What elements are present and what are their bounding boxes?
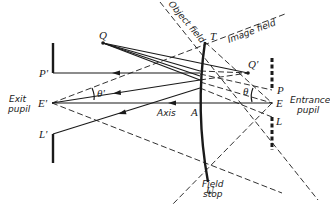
ray-Q-1 xyxy=(103,43,200,71)
angle-theta-arc xyxy=(251,88,253,102)
label-field-stop-1: Field xyxy=(202,179,224,189)
axis-arrow xyxy=(168,101,176,106)
label-theta-prime: θ' xyxy=(97,87,105,99)
label-P-prime: P' xyxy=(38,67,49,79)
label-exit-pupil-1: Exit xyxy=(9,94,27,104)
arrow-L-prime xyxy=(118,110,127,115)
optics-diagram: Q Q' T U A P P' L L' E E' θ θ' Axis Obje… xyxy=(0,0,330,211)
label-exit-pupil-2: pupil xyxy=(7,104,31,114)
label-entrance-pupil-1: Entrance xyxy=(290,95,330,105)
point-Q xyxy=(101,41,105,45)
label-Q-prime: Q' xyxy=(248,58,259,70)
label-T: T xyxy=(210,30,217,42)
label-L-prime: L' xyxy=(38,128,48,140)
label-P: P xyxy=(276,84,284,96)
arrow-E-prime xyxy=(113,90,121,95)
label-theta: θ xyxy=(243,85,249,97)
dashed-to-P xyxy=(200,74,272,90)
angle-theta-prime-arc xyxy=(92,88,94,100)
ray-Q-4 xyxy=(103,43,248,73)
label-E-prime: E' xyxy=(37,97,48,109)
label-L: L xyxy=(275,115,282,127)
arrow-P-prime xyxy=(112,71,120,76)
label-axis: Axis xyxy=(156,108,176,118)
label-entrance-pupil-2: pupil xyxy=(296,105,320,115)
dashed-Q-prime-2 xyxy=(200,73,248,80)
ray-to-L-prime xyxy=(53,88,200,134)
label-object-field: Object field xyxy=(166,0,207,45)
ray-to-E-prime xyxy=(52,80,200,103)
label-image-field: Image field xyxy=(226,17,277,45)
label-A: A xyxy=(190,106,198,118)
label-E: E xyxy=(275,97,283,109)
label-field-stop-2: stop xyxy=(203,189,223,199)
label-Q: Q xyxy=(99,29,107,41)
point-Q-prime xyxy=(246,71,250,75)
